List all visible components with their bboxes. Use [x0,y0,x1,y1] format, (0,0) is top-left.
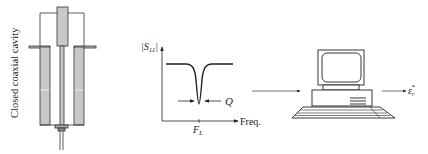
y-axis-label: |S11| [141,41,158,54]
output-permittivity-label: εr* [408,83,415,97]
s11-plot: |S11| Freq. Q FL [141,41,261,137]
fl-label: FL [192,124,203,137]
measurement-diagram: Closed coaxial cavity [0,0,428,154]
computer-icon [292,50,395,118]
q-label: Q [225,95,233,107]
resonance-curve [166,64,233,104]
cavity-label: Closed coaxial cavity [9,27,20,118]
x-axis-label: Freq. [240,116,261,127]
coaxial-cavity [29,7,96,150]
